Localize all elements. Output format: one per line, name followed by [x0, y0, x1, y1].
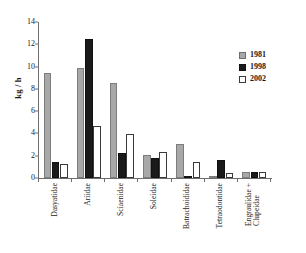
- y-tick-label: 10: [27, 63, 35, 71]
- bar-2002: [126, 134, 134, 178]
- bar-2002: [60, 164, 68, 178]
- x-tick-mark: [38, 178, 39, 182]
- y-axis-title: kg / h: [13, 77, 23, 99]
- y-tick-label: 12: [27, 40, 35, 48]
- bar-2002: [226, 173, 234, 178]
- x-axis-label: Tetraodontidae: [216, 183, 224, 228]
- x-axis-label: Engraulidae + Clupeidae: [245, 183, 260, 226]
- bar-2002: [259, 172, 267, 178]
- x-tick-mark: [137, 178, 138, 182]
- legend-item-1981: 1981: [239, 49, 266, 61]
- bar-1981: [242, 172, 250, 178]
- bar-1998: [151, 158, 159, 178]
- x-tick-mark: [237, 178, 238, 182]
- legend-item-2002: 2002: [239, 73, 266, 85]
- legend-label-2002: 2002: [250, 75, 266, 83]
- plot-area: 02468101214: [38, 22, 270, 178]
- bar-1998: [118, 153, 126, 178]
- bar-group: [104, 22, 137, 178]
- bar-1981: [209, 176, 217, 178]
- black-swatch-icon: [239, 64, 246, 71]
- bar-1981: [77, 68, 85, 178]
- chart-figure: kg / h 02468101214 DasyatidaeAriidaeScia…: [0, 0, 306, 253]
- legend-item-1998: 1998: [239, 61, 266, 73]
- bar-1998: [251, 172, 259, 178]
- bar-group: [71, 22, 104, 178]
- bar-1981: [176, 144, 184, 178]
- white-swatch-icon: [239, 76, 246, 83]
- gray-swatch-icon: [239, 52, 246, 59]
- x-tick-mark: [171, 178, 172, 182]
- x-tick-mark: [71, 178, 72, 182]
- bar-1981: [110, 83, 118, 178]
- bar-1998: [184, 176, 192, 178]
- x-axis-label: Soleidae: [150, 183, 158, 209]
- legend: 1981 1998 2002: [239, 49, 266, 85]
- x-axis-label: Batrachoididae: [183, 183, 191, 229]
- x-tick-mark: [270, 178, 271, 182]
- bar-1998: [85, 39, 93, 178]
- bar-group: [204, 22, 237, 178]
- bar-1981: [44, 73, 52, 178]
- bar-group: [171, 22, 204, 178]
- bar-2002: [93, 126, 101, 178]
- legend-label-1981: 1981: [250, 51, 266, 59]
- x-axis-label: Ariidae: [84, 183, 92, 206]
- bar-group: [137, 22, 170, 178]
- bar-group: [38, 22, 71, 178]
- legend-label-1998: 1998: [250, 63, 266, 71]
- x-axis-label: Dasyatidae: [51, 183, 59, 217]
- bar-1981: [143, 155, 151, 178]
- y-tick-label: 14: [27, 18, 35, 26]
- x-tick-mark: [204, 178, 205, 182]
- bar-2002: [193, 162, 201, 178]
- bar-2002: [159, 152, 167, 178]
- bar-1998: [217, 160, 225, 178]
- x-tick-mark: [104, 178, 105, 182]
- bar-group: [237, 22, 270, 178]
- bar-1998: [52, 162, 60, 178]
- x-axis-label: Sciaenidae: [117, 183, 125, 216]
